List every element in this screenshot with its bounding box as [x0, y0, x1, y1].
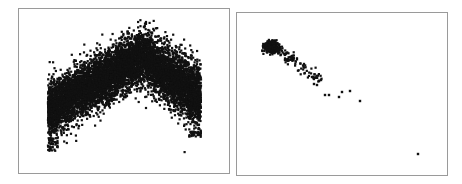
- scatter-plot-right: Small dense cluster in upper-left traili…: [236, 12, 448, 176]
- scatter-points-right: [237, 13, 449, 177]
- scatter-points-left: [19, 9, 231, 175]
- scatter-plot-left: Dense inverted-V (tent shaped) point clo…: [18, 8, 230, 174]
